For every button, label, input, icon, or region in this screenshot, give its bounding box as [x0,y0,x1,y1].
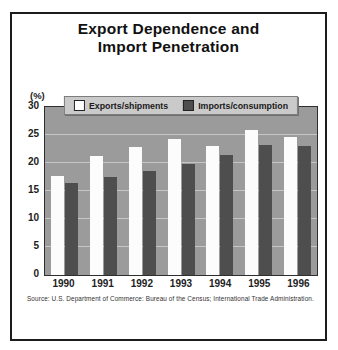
bar-exports-1995 [245,130,258,275]
chart-title-line1: Export Dependence and [12,20,325,38]
chart-figure: Export Dependence and Import Penetration… [10,12,327,341]
legend-swatch-imports [183,100,194,111]
chart-title-line2: Import Penetration [12,38,325,56]
bar-imports-1994 [220,155,233,275]
y-tick-25: 25 [12,128,39,139]
bar-group-1992 [123,107,162,275]
bar-group-1995 [239,107,278,275]
x-axis-tick-labels: 1990199119921993199419951996 [44,278,318,289]
bar-imports-1993 [182,164,195,275]
bar-imports-1995 [259,145,272,275]
y-axis-tick-labels: 051015202530 [12,106,39,274]
y-tick-10: 10 [12,212,39,223]
bar-exports-1993 [168,139,181,275]
bar-imports-1992 [143,171,156,275]
y-tick-30: 30 [12,100,39,111]
bar-group-1996 [278,107,317,275]
legend-swatch-exports [74,100,85,111]
y-tick-20: 20 [12,156,39,167]
x-tick-1991: 1991 [83,278,122,289]
bar-group-1990 [45,107,84,275]
plot-area: Exports/shipments Imports/consumption [44,106,318,276]
x-tick-1994: 1994 [201,278,240,289]
x-tick-1993: 1993 [161,278,200,289]
legend-label-exports: Exports/shipments [89,101,168,111]
bar-imports-1991 [104,177,117,275]
x-tick-1995: 1995 [240,278,279,289]
x-tick-1992: 1992 [122,278,161,289]
source-note: Source: U.S. Department of Commerce: Bur… [27,295,322,302]
y-tick-5: 5 [12,240,39,251]
bar-exports-1990 [51,176,64,275]
legend-item-imports: Imports/consumption [183,100,288,111]
x-tick-1996: 1996 [279,278,318,289]
legend-item-exports: Exports/shipments [74,100,168,111]
bar-exports-1996 [284,137,297,275]
bar-exports-1994 [206,146,219,275]
bar-exports-1992 [129,147,142,275]
bar-group-1993 [162,107,201,275]
bar-group-1991 [84,107,123,275]
bar-group-1994 [200,107,239,275]
bar-imports-1990 [65,183,78,275]
bars-container [45,107,317,275]
bar-imports-1996 [298,146,311,275]
y-tick-0: 0 [12,268,39,279]
legend: Exports/shipments Imports/consumption [64,96,298,115]
x-tick-1990: 1990 [44,278,83,289]
bar-exports-1991 [90,156,103,275]
legend-label-imports: Imports/consumption [198,101,288,111]
chart-title: Export Dependence and Import Penetration [12,20,325,56]
y-tick-15: 15 [12,184,39,195]
